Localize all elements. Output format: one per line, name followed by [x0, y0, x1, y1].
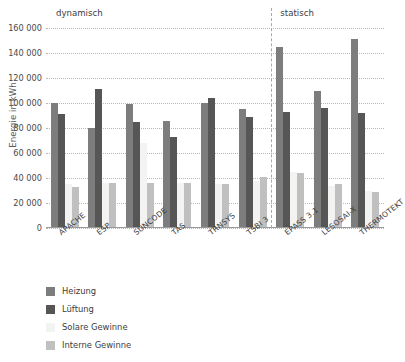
bar-group: [196, 28, 234, 228]
y-tick-label: 100 000: [0, 98, 42, 108]
y-tick-label: 20 000: [0, 198, 42, 208]
y-tick-label: 160 000: [0, 23, 42, 33]
bar-group: [346, 28, 384, 228]
y-tick-label: 0: [0, 223, 42, 233]
y-tick-label: 140 000: [0, 48, 42, 58]
bar: [95, 89, 102, 228]
bar: [109, 183, 116, 228]
bar: [351, 39, 358, 228]
legend-label: Solare Gewinne: [62, 322, 128, 332]
bar: [51, 103, 58, 228]
plot-area: [46, 28, 384, 228]
bar: [246, 117, 253, 228]
section-divider: [271, 8, 272, 228]
legend-item[interactable]: Interne Gewinne: [46, 336, 246, 354]
bar: [170, 137, 177, 228]
legend-label: Lüftung: [62, 304, 94, 314]
bar: [208, 98, 215, 228]
bar: [58, 114, 65, 228]
bar-group: [234, 28, 272, 228]
legend-item[interactable]: Solare Gewinne: [46, 318, 246, 336]
legend-item[interactable]: Lüftung: [46, 300, 246, 318]
legend-label: Interne Gewinne: [62, 340, 131, 350]
bar: [184, 183, 191, 228]
legend-swatch: [46, 341, 55, 350]
y-tick-label: 40 000: [0, 173, 42, 183]
bar: [133, 122, 140, 228]
bar: [140, 143, 147, 228]
legend-label: Heizung: [62, 286, 96, 296]
bar-groups: [46, 28, 384, 228]
x-axis-labels: APACHEESPSUNCODETASTRNSYSTSBI 3EPASS 3.1…: [46, 230, 384, 285]
legend-item[interactable]: Heizung: [46, 282, 246, 300]
section-label-statisch: statisch: [280, 8, 314, 18]
bar-group: [309, 28, 347, 228]
chart-legend: HeizungLüftungSolare GewinneInterne Gewi…: [46, 282, 246, 354]
legend-swatch: [46, 323, 55, 332]
bar-group: [159, 28, 197, 228]
y-tick-label: 80 000: [0, 123, 42, 133]
bar-group: [121, 28, 159, 228]
bar: [358, 113, 365, 228]
legend-swatch: [46, 287, 55, 296]
bar-group: [46, 28, 84, 228]
y-tick-label: 120 000: [0, 73, 42, 83]
bar-group: [271, 28, 309, 228]
bar: [126, 104, 133, 228]
bar: [239, 109, 246, 228]
section-label-dynamisch: dynamisch: [56, 8, 103, 18]
legend-swatch: [46, 305, 55, 314]
bar: [276, 47, 283, 228]
bar: [321, 108, 328, 228]
bar: [283, 112, 290, 228]
bar-group: [84, 28, 122, 228]
bar: [201, 103, 208, 228]
bar: [88, 128, 95, 228]
y-tick-label: 60 000: [0, 148, 42, 158]
